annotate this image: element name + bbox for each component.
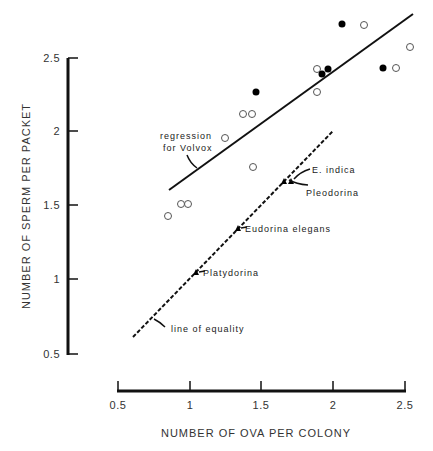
regression-line [169, 14, 413, 190]
platydorina-label: Platydorina [203, 268, 259, 278]
x-tick-label: 2.5 [397, 399, 414, 411]
x-tick-label: 1 [187, 399, 194, 411]
equality-line [133, 131, 333, 337]
filled-circle-series [253, 21, 387, 96]
regression-label-line2: for Volvox [163, 143, 213, 153]
x-tick-label: 1.5 [253, 399, 270, 411]
annotation-arrows [154, 155, 310, 327]
x-axis: 0.5 1 1.5 2 2.5 NUMBER OF OVA PER COLONY [110, 381, 414, 439]
x-tick-label: 0.5 [110, 399, 127, 411]
equality-label: line of equality [171, 324, 245, 334]
x-axis-title: NUMBER OF OVA PER COLONY [161, 427, 351, 439]
e-indica-label: E. indica [312, 165, 356, 175]
regression-label-line1: regression [160, 131, 212, 141]
y-tick-label: 1.5 [43, 199, 60, 211]
y-tick-label: 1 [53, 273, 60, 285]
eudorina-label: Eudorina elegans [245, 224, 331, 234]
y-axis: 2.5 2 1.5 1 0.5 NUMBER OF SPERM PER PACK… [20, 52, 78, 360]
scatter-chart: 2.5 2 1.5 1 0.5 NUMBER OF SPERM PER PACK… [0, 0, 433, 451]
y-tick-label: 0.5 [43, 348, 60, 360]
y-tick-label: 2.5 [43, 52, 60, 64]
x-tick-label: 2 [330, 399, 337, 411]
y-tick-label: 2 [53, 125, 60, 137]
y-axis-title: NUMBER OF SPERM PER PACKET [20, 103, 32, 309]
pleodorina-label: Pleodorina [306, 188, 359, 198]
open-circle-series [165, 22, 414, 220]
